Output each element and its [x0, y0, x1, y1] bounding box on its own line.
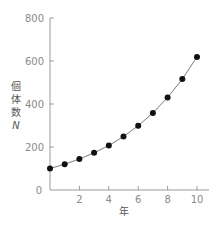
data-point — [194, 54, 200, 60]
x-tick-label: 6 — [135, 194, 141, 205]
y-axis-title-char-1: 個 — [11, 80, 21, 92]
data-point — [62, 161, 68, 167]
data-point — [121, 133, 127, 139]
data-point — [165, 95, 171, 101]
y-axis-title-symbol: N — [12, 120, 20, 131]
data-point — [106, 142, 112, 148]
data-markers — [47, 54, 200, 172]
y-tick-label: 400 — [25, 99, 44, 110]
y-tick-label: 800 — [25, 13, 44, 24]
data-point — [150, 110, 156, 116]
x-tick-label: 10 — [191, 194, 204, 205]
y-axis-title-char-3: 数 — [11, 106, 21, 118]
data-point — [47, 166, 53, 172]
data-point — [135, 123, 141, 129]
data-point — [91, 150, 97, 156]
x-tick-label: 8 — [164, 194, 170, 205]
y-axis-title: 個 体 数 N — [11, 80, 21, 131]
axes — [50, 18, 209, 190]
x-tick-label: 2 — [76, 194, 82, 205]
data-point — [76, 156, 82, 162]
x-tick-label: 4 — [106, 194, 112, 205]
series-line — [50, 57, 197, 169]
population-growth-chart: 200400600800 246810 0 個 体 数 N 年 — [0, 0, 222, 230]
y-tick-label: 600 — [25, 56, 44, 67]
x-axis-ticks: 246810 — [76, 186, 203, 205]
x-axis-title: 年 — [119, 205, 129, 217]
origin-label: 0 — [36, 185, 42, 196]
y-axis-title-char-2: 体 — [11, 94, 21, 105]
y-tick-label: 200 — [25, 142, 44, 153]
data-point — [179, 76, 185, 82]
